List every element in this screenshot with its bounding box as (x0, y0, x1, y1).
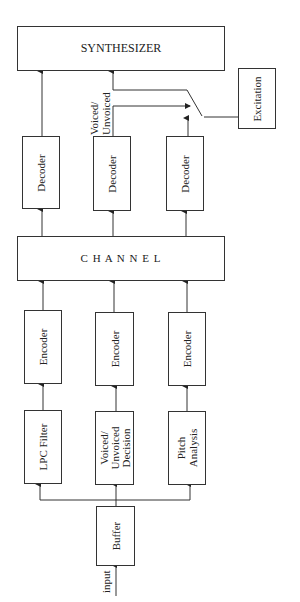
decoder-block-2: Decoder (93, 136, 131, 211)
decoder-block-1: Decoder (22, 136, 60, 209)
encoder-label-2: Encoder (109, 331, 120, 368)
pitch-line1: Pitch (175, 429, 187, 468)
vuv-label-line2: Unvoiced (100, 92, 112, 135)
vuv-decision-line2: Unvoiced (109, 427, 120, 470)
pitch-line2: Analysis (187, 429, 199, 468)
vuv-decision-line3: Decision (120, 427, 131, 470)
channel-label: C H A N N E L (18, 252, 224, 264)
decoder-label-3: Decoder (180, 155, 191, 192)
encoder-block-3: Encoder (168, 312, 206, 386)
encoder-label-3: Encoder (182, 331, 193, 368)
buffer-block: Buffer (96, 506, 135, 566)
channel-block: C H A N N E L (17, 236, 225, 281)
encoder-block-2: Encoder (95, 312, 134, 386)
vuv-decision-label: Voiced/ Unvoiced Decision (98, 427, 131, 470)
input-label: input (101, 570, 112, 593)
encoder-block-1: Encoder (24, 310, 62, 384)
vuv-label: Voiced/ Unvoiced (88, 92, 112, 135)
decoder-label-2: Decoder (107, 155, 118, 192)
buffer-label: Buffer (110, 522, 121, 551)
decoder-label-1: Decoder (36, 154, 47, 191)
vuv-label-line1: Voiced/ (88, 92, 100, 135)
encoder-label-1: Encoder (38, 329, 49, 366)
vuv-decision-line1: Voiced/ (98, 427, 109, 470)
lpc-filter-block: LPC Filter (24, 410, 62, 484)
synthesizer-block: SYNTHESIZER (17, 26, 225, 71)
excitation-label: Excitation (252, 76, 263, 121)
decoder-block-3: Decoder (166, 136, 204, 211)
pitch-analysis-label: Pitch Analysis (175, 429, 199, 468)
pitch-analysis-block: Pitch Analysis (168, 411, 206, 485)
lpc-filter-label: LPC Filter (38, 424, 49, 471)
excitation-block: Excitation (238, 68, 276, 129)
vuv-decision-block: Voiced/ Unvoiced Decision (95, 411, 134, 485)
synthesizer-label: SYNTHESIZER (18, 41, 224, 56)
